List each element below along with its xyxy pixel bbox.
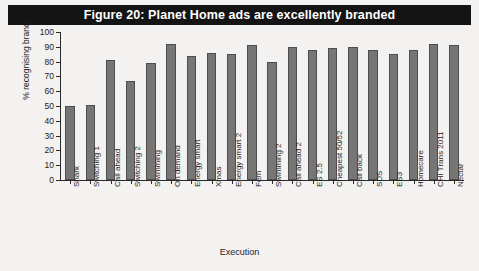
x-axis-tick-label: Call ahead 2 — [295, 142, 303, 187]
x-axis-tick-label: SDS — [376, 171, 384, 187]
bar — [449, 45, 458, 180]
x-axis-tick-label: Cheapest 50/52 — [336, 131, 344, 188]
y-axis-tick-labels: 0102030405060708090100 — [28, 32, 54, 180]
figure-container: Figure 20: Planet Home ads are excellent… — [0, 0, 479, 271]
y-axis-tick — [56, 136, 60, 137]
x-axis-tick — [353, 180, 354, 184]
x-axis-tick — [70, 180, 71, 184]
y-axis-tick-label: 50 — [30, 102, 54, 110]
y-axis-tick — [56, 165, 60, 166]
x-axis-tick — [333, 180, 334, 184]
x-axis-tick — [111, 180, 112, 184]
bar — [207, 53, 216, 180]
y-axis-tick-label: 100 — [30, 28, 54, 36]
x-axis-tick-label: Call ahead — [114, 149, 122, 187]
y-axis-tick-label: 60 — [30, 87, 54, 95]
x-axis-tick-label: Switching 1 — [93, 146, 101, 187]
y-axis-tick-label: 90 — [30, 43, 54, 51]
x-axis-tick-label: Energy smart 2 — [235, 133, 243, 187]
y-axis-tick — [56, 76, 60, 77]
y-axis-line — [60, 32, 61, 180]
x-axis-tick — [313, 180, 314, 184]
x-axis-tick-label: Energy smart — [194, 139, 202, 187]
x-axis-tick — [212, 180, 213, 184]
x-axis-tick — [232, 180, 233, 184]
y-axis-tick — [56, 180, 60, 181]
x-axis-tick-label: Nectar — [457, 163, 465, 187]
x-axis-tick-label: Homecare — [417, 150, 425, 187]
x-axis-tick-label: ES3 — [396, 172, 404, 187]
y-axis-tick-label: 10 — [30, 161, 54, 169]
y-axis-tick-label: 30 — [30, 132, 54, 140]
bar — [389, 54, 398, 180]
y-axis-tick — [56, 91, 60, 92]
x-axis-tick — [434, 180, 435, 184]
x-axis-tick — [454, 180, 455, 184]
x-axis-tick — [252, 180, 253, 184]
y-axis-tick — [56, 106, 60, 107]
x-axis-tick-label: Fern — [255, 171, 263, 187]
figure-title-banner: Figure 20: Planet Home ads are excellent… — [8, 5, 471, 25]
x-axis-tick-label: Xmas — [215, 167, 223, 187]
y-axis-tick-label: 80 — [30, 58, 54, 66]
y-axis-tick — [56, 150, 60, 151]
x-axis-title: Execution — [0, 247, 479, 257]
y-axis-tick — [56, 121, 60, 122]
x-axis-tick-label: Shark — [73, 166, 81, 187]
y-axis-tick — [56, 62, 60, 63]
page-title: Figure 20: Planet Home ads are excellent… — [84, 8, 395, 22]
x-axis-tick — [171, 180, 172, 184]
x-axis-tick-label: On demand — [174, 145, 182, 187]
x-axis-tick-label: ES 2.5 — [316, 163, 324, 187]
x-axis-tick-label: Switching 2 — [134, 146, 142, 187]
y-axis-tick-label: 70 — [30, 72, 54, 80]
y-axis-tick-label: 40 — [30, 117, 54, 125]
bar — [368, 50, 377, 180]
plot-area: SharkSwitching 1Call aheadSwitching 2Swi… — [60, 32, 464, 180]
y-axis-tick — [56, 32, 60, 33]
x-axis-tick — [373, 180, 374, 184]
y-axis-tick — [56, 47, 60, 48]
x-axis-tick-label: CHI Trans 2011 — [437, 132, 445, 187]
x-axis-tick — [414, 180, 415, 184]
x-axis-tick-label: Call back — [356, 154, 364, 187]
x-axis-tick — [151, 180, 152, 184]
y-axis-title: % recognising brand — [21, 0, 31, 131]
y-axis-tick-label: 0 — [30, 176, 54, 184]
y-axis-tick-label: 20 — [30, 146, 54, 154]
x-axis-tick — [272, 180, 273, 184]
x-axis-tick-label: Swimming 2 — [275, 143, 283, 187]
bar — [247, 45, 256, 180]
x-axis-tick — [131, 180, 132, 184]
x-axis-tick-label: Swimming — [154, 150, 162, 187]
bar — [308, 50, 317, 180]
